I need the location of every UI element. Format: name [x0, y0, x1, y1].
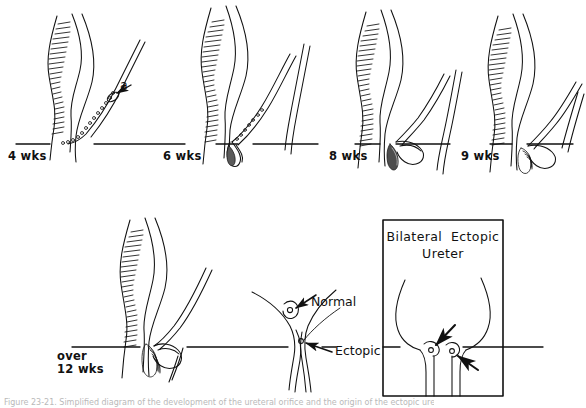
panel-4wks	[48, 14, 145, 162]
bilateral-panel-title-line2: Ureter	[383, 245, 503, 262]
normal-orifice-marker	[287, 307, 292, 312]
striations-6wks	[202, 20, 224, 142]
figure-canvas: 4 wks 6 wks 8 wks 9 wks over 12 wks a No…	[0, 0, 586, 408]
panel-over-12wks	[120, 218, 212, 382]
stage-label-6wks: 6 wks	[163, 150, 202, 163]
panel-8wks	[356, 10, 462, 174]
striations-4wks	[49, 22, 70, 134]
panel-6wks	[201, 6, 310, 167]
stage-label-9wks: 9 wks	[461, 150, 500, 163]
figure-caption: Figure 23-21. Simplified diagram of the …	[4, 397, 434, 408]
right-ectopic-orifice-marker	[450, 349, 455, 354]
stage-label-over-12wks: over 12 wks	[57, 350, 104, 376]
striations-8wks	[357, 24, 379, 146]
arrow-left-ectopic	[436, 325, 455, 345]
striations-9wks	[489, 28, 511, 145]
annotation-ectopic: Ectopic	[335, 343, 381, 358]
curled-orifice-12wks	[142, 344, 160, 377]
stage-label-4wks: 4 wks	[8, 150, 47, 163]
panel-9wks	[488, 14, 584, 173]
bud-beading	[62, 92, 115, 145]
annotation-bud-a: a	[120, 77, 128, 92]
left-ectopic-orifice-marker	[429, 348, 434, 353]
stage-label-8wks: 8 wks	[329, 150, 368, 163]
annotation-normal: Normal	[311, 294, 356, 309]
curled-orifice-9wks	[518, 148, 532, 173]
striations-12wks	[121, 230, 143, 347]
bilateral-panel-title-line1: Bilateral Ectopic	[383, 228, 503, 245]
anatomical-diagram-svg	[0, 0, 586, 408]
